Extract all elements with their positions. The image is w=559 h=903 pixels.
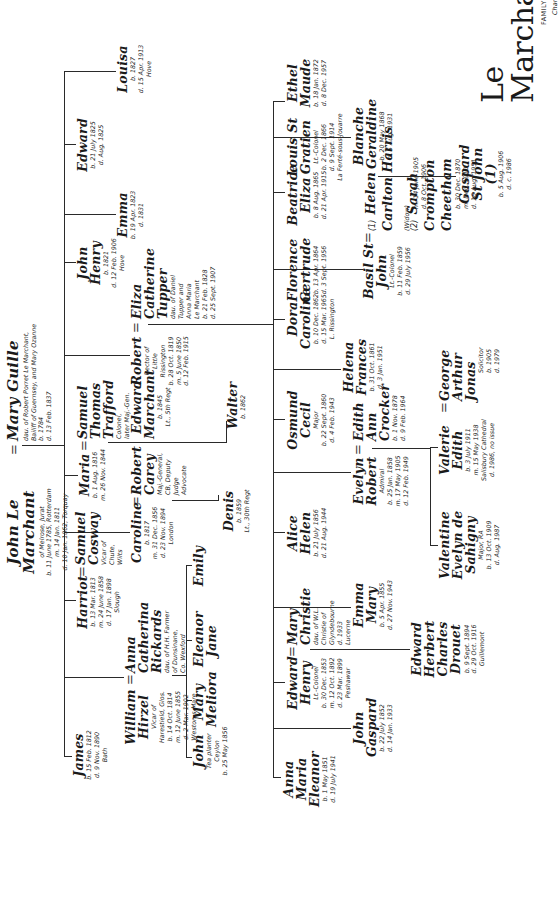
person-mary-christie: Mary Christie dau. of W.L. Christie of G… xyxy=(286,587,352,645)
person-emma-mary: Emma Mary b. 5 Apr. 1855 d. 27 Nov. 1943 xyxy=(352,575,394,635)
tree-line xyxy=(378,176,456,177)
tree-line xyxy=(273,682,285,683)
person-emily: Emily xyxy=(192,543,205,589)
person-john-le-marchant: John Le Marchant of Melrose, Jurat b. 11… xyxy=(6,457,69,607)
person-louisa: Louisa b. 1827 d. 15 Apr. 1913 Hove xyxy=(116,41,153,97)
person-evelyn-robert: Evelyn Robert Admiral b. 25 Jan. 1858 m.… xyxy=(352,451,410,511)
tree-line xyxy=(218,495,219,501)
tree-line xyxy=(273,102,274,778)
person-basil-st-john: Basil St John Lt.-Colonel b. 11 Feb. 185… xyxy=(362,243,412,299)
tree-line xyxy=(273,532,285,533)
tree-line xyxy=(372,448,430,449)
marriage-sign: = xyxy=(350,444,365,455)
chart-number: Chart I xyxy=(551,0,559,15)
person-maria: Maria b. 1 Aug. 1816 m. 26 Nov. 1844 xyxy=(78,447,107,503)
person-john-gaspard: John Gaspard b. 22 July 1852 d. 14 Jan. … xyxy=(352,699,394,757)
tree-line xyxy=(64,355,130,356)
chart-title: Le Marchant xyxy=(478,0,538,103)
person-gaspard-st-john: Gaspard St John (1) b. 5 Aug. 1906 d. c.… xyxy=(458,139,513,209)
chart-title-block: Le Marchant FAMILY TREE Chart I xyxy=(478,0,559,103)
person-louis-st-gratien: Louis St Gratien Lt.-Colonel b. 2 Dec. 1… xyxy=(286,107,344,187)
person-eleanor-jane: Eleanor Jane xyxy=(192,615,218,667)
marriage-sign: = xyxy=(74,566,89,577)
marriage-sign: = xyxy=(360,232,375,243)
tree-line xyxy=(64,475,78,476)
tree-line xyxy=(273,319,285,320)
person-osmund-cecil: Osmund Cecil Major b. 22 Sept. 1860 d. 4… xyxy=(286,389,336,451)
tree-line xyxy=(172,675,186,676)
person-helena-frances: Helena Frances b. 31 Oct. 1861 d. 3 Jan.… xyxy=(342,337,384,397)
marriage-sign: = xyxy=(436,402,451,413)
tree-line xyxy=(64,71,116,72)
tree-line xyxy=(64,72,65,757)
person-john-tea-planter: John Tea planter Ceylon b. 25 May 1856 xyxy=(192,723,229,779)
person-samuel-thomas-trafford: Samuel Thomas Trafford Colonel, later Ma… xyxy=(76,379,131,439)
marriage-sign: = xyxy=(128,496,143,507)
tree-line xyxy=(186,566,187,758)
person-harriot: Harriot b. 13 Mar. 1813 m. 24 June 1858 … xyxy=(76,569,121,635)
person-denis: Denis b. 1859 Lt., 30th Regt xyxy=(222,481,251,541)
tree-line xyxy=(273,472,351,473)
tree-line xyxy=(64,677,124,678)
marriage-sign: = xyxy=(284,646,299,657)
marriage-sign: = xyxy=(76,440,91,451)
marriage-sign: = xyxy=(128,322,143,333)
person-anna-maria-eleanor: Anna Maria Eleanor b. 1 May 1851 d. 19 J… xyxy=(282,751,337,807)
person-mary-meliora: Mary Meliora xyxy=(192,677,218,727)
tree-line xyxy=(273,369,341,370)
person-mary-guille: Mary Guille dau. of Robert Porret Le Mar… xyxy=(6,281,53,441)
person-anna-catherina-rickards: Anna Catherina Rickards dau. of H.H. Far… xyxy=(124,607,187,673)
tree-line xyxy=(310,649,410,650)
tree-line xyxy=(108,442,226,443)
marriage-sign: = xyxy=(122,674,137,685)
tree-line xyxy=(430,448,431,546)
person-eliza-catherine-tupper: Eliza Catherine Tupper dau. of Daniel Tu… xyxy=(130,255,217,319)
person-robert-carey: Robert Carey Maj.-General, CB, Deputy Ju… xyxy=(130,439,188,495)
person-ethel-maude: Ethel Maude b. 18 Jan. 1872 d. 8 Dec. 19… xyxy=(286,53,328,113)
person-caroline: Caroline b. 1817 m. 31 Dec. 1856 d. 23 N… xyxy=(130,503,175,563)
chart-subtitle: FAMILY TREE xyxy=(540,0,548,25)
person-valerie-edith: Valerie Edith b. 3 July 1911 m. 15 May 1… xyxy=(438,409,496,491)
person-edward-henry: Edward Henry Lt.-Colonel b. 30 Dec. 1853… xyxy=(286,653,352,713)
tree-line xyxy=(172,500,218,501)
tree-line xyxy=(273,419,285,420)
tree-line xyxy=(273,192,285,193)
tree-line xyxy=(273,728,351,729)
tree-line xyxy=(273,269,285,270)
person-george-arthur-jonas: George Arthur Jonas Solicitor b. 1905 d.… xyxy=(438,311,501,401)
tree-line xyxy=(22,445,64,446)
person-edward-marchant: Edward Marchant b. 1845 Lt., 5th Regt xyxy=(130,375,172,439)
person-valentine-evelyn-de-sahigny: Valentine Evelyn de Sahigny Major, RA b.… xyxy=(438,509,501,581)
person-florence-gertrude: Florence Gertrude b. 13 Apr. 1864 d. 3 S… xyxy=(286,237,328,303)
marriage-sign: = xyxy=(6,444,21,455)
person-walter: Walter b. 1862 xyxy=(226,385,247,429)
tree-line xyxy=(64,214,116,215)
person-alice-helen: Alice Helen b. 21 July 1856 d. 21 Aug. 1… xyxy=(286,503,328,563)
person-emma: Emma b. 19 Apr. 1823 d. 1831 xyxy=(116,187,145,243)
person-edward-herbert-charles-drouet: Edward Herbert Charles Drouet b. 9 Sept.… xyxy=(410,617,486,681)
person-samuel-cosway: Samuel Cosway Vicar of Chute, Wilts xyxy=(74,515,124,565)
person-edward: Edward b. 21 July 1825 d. Aug. 1825 xyxy=(76,113,105,177)
tree-line xyxy=(273,101,285,102)
person-james: James b. 15 Feb. 1812 d. 9 Nov. 1890 Bat… xyxy=(72,725,109,785)
person-blanche-geraldine: Blanche Geraldine b. 20 May 1868 d. 5 Au… xyxy=(352,103,394,169)
tree-line xyxy=(273,777,281,778)
tree-line xyxy=(148,324,273,325)
